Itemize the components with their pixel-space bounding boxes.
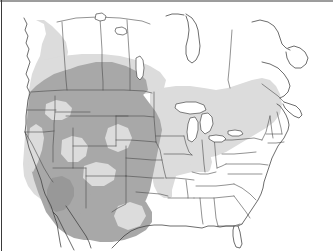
range-shape-western-corridor-gap bbox=[105, 124, 132, 152]
lake-winnipeg bbox=[136, 56, 144, 80]
map-canvas bbox=[0, 0, 333, 251]
range-map-figure bbox=[0, 0, 333, 251]
lake-ontario bbox=[228, 130, 243, 136]
